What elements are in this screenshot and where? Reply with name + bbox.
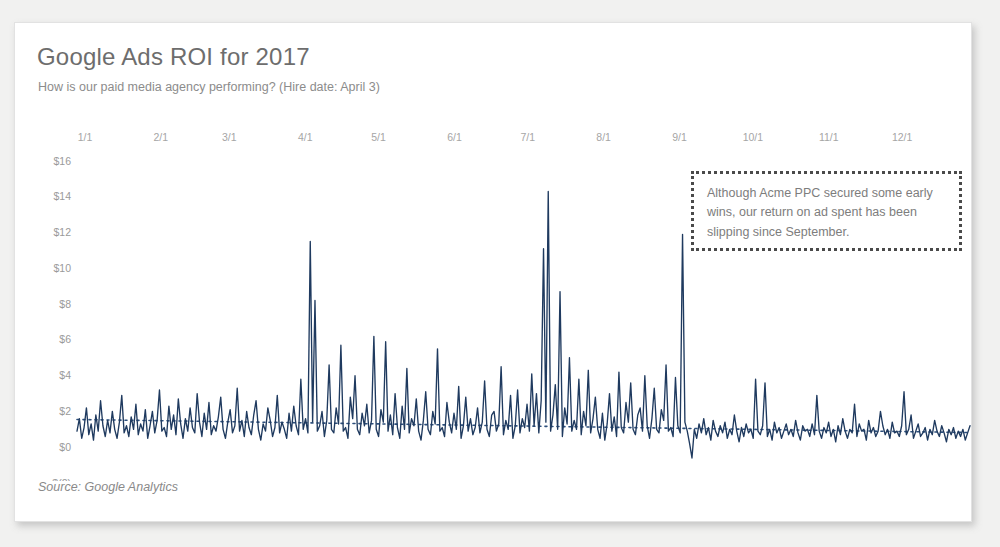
y-axis-tick: $6 — [59, 333, 71, 345]
screenshot-root: Google Ads ROI for 2017 How is our paid … — [0, 0, 1000, 547]
y-axis-tick: $4 — [59, 369, 71, 381]
x-axis-tick: 7/1 — [521, 131, 536, 143]
x-axis-tick: 3/1 — [222, 131, 237, 143]
annotation-callout: Although Acme PPC secured some early win… — [691, 171, 962, 251]
x-axis-tick: 6/1 — [447, 131, 462, 143]
x-axis-tick: 9/1 — [672, 131, 687, 143]
x-axis-tick: 4/1 — [298, 131, 313, 143]
source-label: Source: Google Analytics — [38, 480, 178, 494]
x-axis-tick: 8/1 — [596, 131, 611, 143]
annotation-text: Although Acme PPC secured some early win… — [707, 184, 946, 242]
x-axis-tick: 5/1 — [371, 131, 386, 143]
x-axis-tick: 2/1 — [154, 131, 169, 143]
y-axis-tick: $16 — [53, 155, 71, 167]
y-axis-tick: $0 — [59, 441, 71, 453]
roi-line-chart: $16$14$12$10$8$6$4$2$0$(2) 1/12/13/14/15… — [15, 111, 973, 481]
y-axis-tick: $12 — [53, 226, 71, 238]
chart-subtitle: How is our paid media agency performing?… — [38, 80, 380, 94]
y-axis-tick: $2 — [59, 405, 71, 417]
y-axis-tick: $14 — [53, 190, 71, 202]
x-axis-tick: 12/1 — [892, 131, 913, 143]
y-axis-labels: $16$14$12$10$8$6$4$2$0$(2) — [52, 155, 71, 482]
x-axis-tick: 10/1 — [743, 131, 764, 143]
x-axis-tick: 1/1 — [78, 131, 93, 143]
chart-card: Google Ads ROI for 2017 How is our paid … — [14, 22, 972, 522]
y-axis-tick: $10 — [53, 262, 71, 274]
x-axis-tick: 11/1 — [819, 131, 839, 143]
page-title: Google Ads ROI for 2017 — [37, 43, 310, 71]
y-axis-tick: $8 — [59, 298, 71, 310]
x-axis-labels: 1/12/13/14/15/16/17/18/19/110/111/112/1 — [78, 131, 913, 143]
chart-plot-area: $16$14$12$10$8$6$4$2$0$(2) 1/12/13/14/15… — [15, 111, 973, 481]
